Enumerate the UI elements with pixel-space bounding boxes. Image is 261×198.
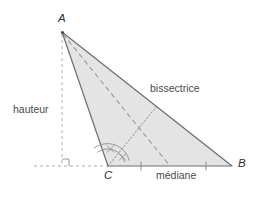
label-mediane: médiane: [156, 170, 196, 181]
label-hauteur: hauteur: [13, 104, 49, 115]
triangle-figure-svg: [0, 0, 261, 198]
vertex-label-b: B: [238, 158, 246, 170]
geometry-diagram: A B C hauteur bissectrice médiane: [0, 0, 261, 198]
vertex-label-c: C: [104, 170, 112, 182]
label-bissectrice: bissectrice: [150, 83, 200, 94]
vertex-dot-a: [61, 31, 64, 34]
vertex-label-a: A: [58, 13, 66, 25]
right-angle-mark: [62, 159, 69, 166]
